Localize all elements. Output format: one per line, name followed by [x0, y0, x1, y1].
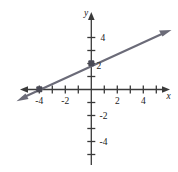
coordinate-plane: -4 -2 2 4 4 2 -2 -4 y x — [0, 0, 178, 172]
function-arrowhead-left — [17, 93, 29, 101]
x-axis-label: x — [165, 91, 171, 101]
x-tick-label-4: 4 — [141, 96, 146, 106]
y-axis-label: y — [83, 8, 89, 18]
x-tick-label--2: -2 — [61, 96, 69, 106]
line-series-y-equals-half-x-plus-2 — [17, 30, 172, 101]
y-tick-label--2: -2 — [100, 111, 108, 121]
x-tick-label--4: -4 — [35, 96, 43, 106]
x-axis-tick-labels: -4 -2 2 4 — [35, 96, 146, 106]
x-axis-arrowhead-left — [20, 86, 28, 93]
graph-figure: -4 -2 2 4 4 2 -2 -4 y x — [0, 0, 178, 172]
y-tick-label-4: 4 — [101, 33, 106, 43]
marked-point-y-intercept — [88, 60, 94, 66]
marked-point-x-intercept — [36, 86, 42, 92]
y-tick-label--4: -4 — [100, 137, 108, 147]
x-tick-label-2: 2 — [115, 96, 120, 106]
y-axis-arrowhead-top — [88, 12, 95, 20]
y-tick-label-2: 2 — [97, 61, 102, 71]
